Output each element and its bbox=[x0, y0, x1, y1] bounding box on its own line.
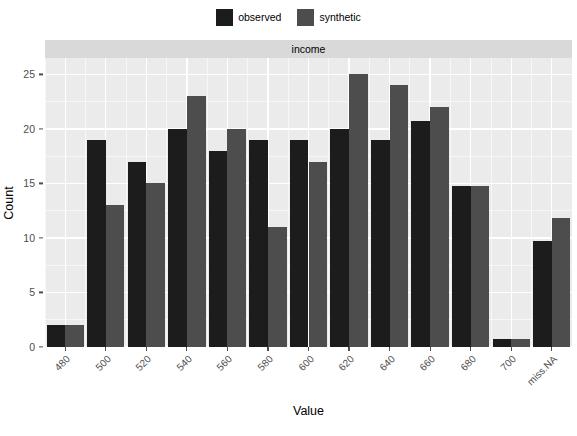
y-tick-label-15: 15 bbox=[23, 178, 35, 189]
bar-observed-620 bbox=[330, 129, 349, 347]
facet-strip-label: income bbox=[292, 44, 326, 55]
y-tick-label-10: 10 bbox=[23, 233, 35, 244]
y-tick-mark bbox=[39, 128, 43, 129]
bar-observed-miss.NA bbox=[533, 241, 552, 347]
gridline-minor-x bbox=[207, 58, 208, 347]
bar-synthetic-500 bbox=[106, 205, 125, 347]
bar-observed-640 bbox=[371, 140, 390, 347]
legend-label-observed: observed bbox=[238, 12, 281, 23]
facet-strip: income bbox=[45, 40, 572, 58]
legend-label-synthetic: synthetic bbox=[319, 12, 360, 23]
x-tick-mark bbox=[308, 347, 309, 351]
x-tick-label-520: 520 bbox=[76, 354, 154, 432]
bar-synthetic-700 bbox=[511, 339, 530, 347]
bar-synthetic-miss.NA bbox=[552, 218, 571, 347]
bar-observed-520 bbox=[128, 162, 147, 347]
gridline-minor-x bbox=[85, 58, 86, 347]
y-tick-label-5: 5 bbox=[29, 287, 35, 298]
bar-synthetic-520 bbox=[146, 183, 165, 347]
gridline-minor-x bbox=[409, 58, 410, 347]
legend-swatch-synthetic bbox=[297, 9, 314, 26]
bar-observed-660 bbox=[411, 121, 430, 347]
bar-observed-700 bbox=[493, 339, 512, 347]
x-tick-mark bbox=[146, 347, 147, 351]
bar-synthetic-600 bbox=[309, 162, 328, 347]
bar-observed-500 bbox=[87, 140, 106, 347]
x-tick-label-660: 660 bbox=[359, 354, 437, 432]
x-tick-label-580: 580 bbox=[197, 354, 275, 432]
gridline-minor-x bbox=[491, 58, 492, 347]
gridline-major-x bbox=[65, 58, 66, 347]
gridline-major-x bbox=[511, 58, 512, 347]
legend-entry-synthetic: synthetic bbox=[297, 9, 360, 26]
y-tick-mark bbox=[39, 346, 43, 347]
x-tick-mark bbox=[267, 347, 268, 351]
legend-swatch-observed bbox=[216, 9, 233, 26]
legend-entry-observed: observed bbox=[216, 9, 281, 26]
x-axis: 480500520540560580600620640660680700miss… bbox=[45, 347, 572, 397]
x-tick-label-700: 700 bbox=[440, 354, 518, 432]
bar-synthetic-540 bbox=[187, 96, 206, 347]
x-tick-mark bbox=[511, 347, 512, 351]
bar-synthetic-480 bbox=[65, 325, 84, 347]
y-axis-title-label: Count bbox=[3, 186, 16, 219]
y-tick-mark bbox=[39, 183, 43, 184]
legend: observedsynthetic bbox=[0, 4, 577, 30]
x-tick-label-620: 620 bbox=[278, 354, 356, 432]
x-tick-label-500: 500 bbox=[35, 354, 113, 432]
gridline-minor-x bbox=[166, 58, 167, 347]
gridline-minor-x bbox=[288, 58, 289, 347]
gridline-minor-x bbox=[247, 58, 248, 347]
bar-synthetic-560 bbox=[227, 129, 246, 347]
x-axis-title: Value bbox=[45, 405, 572, 418]
bar-synthetic-640 bbox=[390, 85, 409, 347]
bar-observed-540 bbox=[168, 129, 187, 347]
x-tick-mark bbox=[389, 347, 390, 351]
bar-observed-580 bbox=[249, 140, 268, 347]
bar-observed-600 bbox=[290, 140, 309, 347]
x-tick-mark bbox=[470, 347, 471, 351]
gridline-minor-x bbox=[531, 58, 532, 347]
x-tick-mark bbox=[65, 347, 66, 351]
x-tick-mark bbox=[227, 347, 228, 351]
x-tick-label-miss.NA: miss.NA bbox=[481, 354, 559, 432]
y-tick-mark bbox=[39, 237, 43, 238]
x-tick-label-640: 640 bbox=[319, 354, 397, 432]
gridline-minor-x bbox=[328, 58, 329, 347]
x-tick-mark bbox=[348, 347, 349, 351]
gridline-minor-x bbox=[450, 58, 451, 347]
x-tick-mark bbox=[105, 347, 106, 351]
plot-panel bbox=[45, 58, 572, 347]
x-tick-mark bbox=[551, 347, 552, 351]
bar-synthetic-660 bbox=[430, 107, 449, 347]
x-tick-mark bbox=[186, 347, 187, 351]
bar-observed-560 bbox=[209, 151, 228, 347]
bar-synthetic-680 bbox=[471, 186, 490, 347]
bar-observed-480 bbox=[47, 325, 66, 347]
bar-synthetic-580 bbox=[268, 227, 287, 347]
y-tick-label-0: 0 bbox=[29, 342, 35, 353]
gridline-minor-x bbox=[126, 58, 127, 347]
y-tick-label-20: 20 bbox=[23, 124, 35, 135]
x-tick-label-680: 680 bbox=[400, 354, 478, 432]
x-tick-label-540: 540 bbox=[116, 354, 194, 432]
bar-observed-680 bbox=[452, 186, 471, 347]
y-tick-label-25: 25 bbox=[23, 69, 35, 80]
x-tick-label-560: 560 bbox=[157, 354, 235, 432]
x-tick-mark bbox=[430, 347, 431, 351]
y-tick-mark bbox=[39, 74, 43, 75]
y-tick-mark bbox=[39, 292, 43, 293]
bar-synthetic-620 bbox=[349, 74, 368, 347]
y-axis-title: Count bbox=[0, 58, 18, 347]
gridline-minor-x bbox=[369, 58, 370, 347]
x-tick-label-480: 480 bbox=[0, 354, 72, 432]
x-tick-label-600: 600 bbox=[238, 354, 316, 432]
